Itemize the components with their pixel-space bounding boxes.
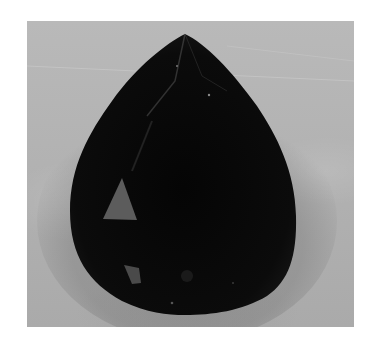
gemstone-illustration bbox=[27, 21, 354, 327]
gemstone-photo bbox=[27, 21, 354, 327]
